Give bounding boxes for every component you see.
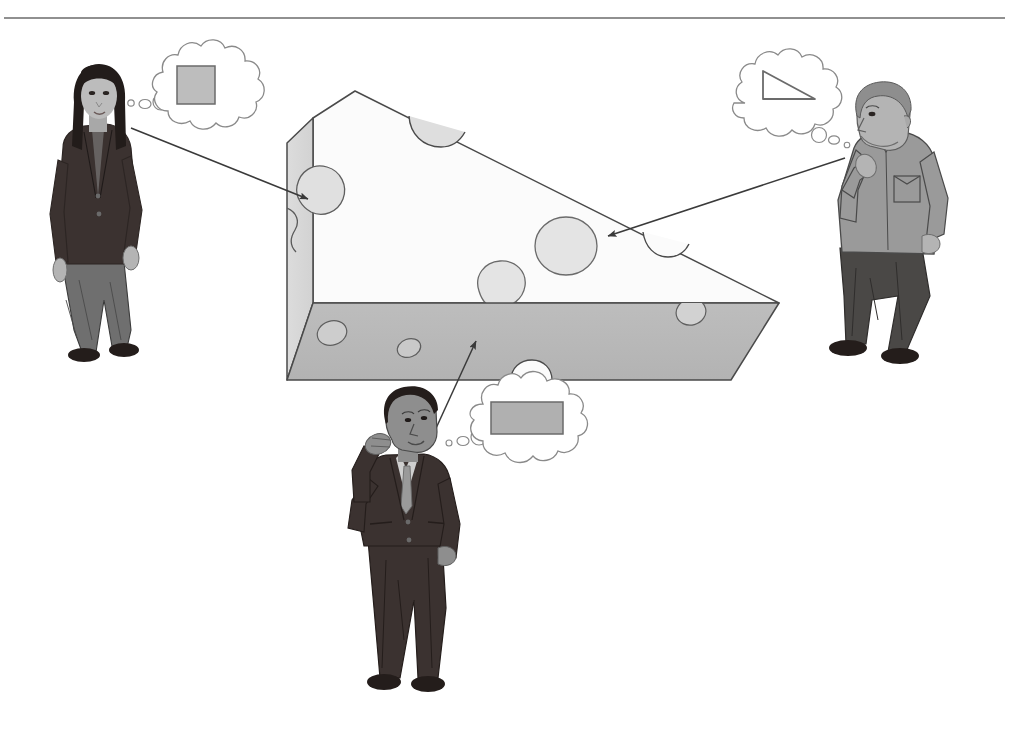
cheese-front-triangular-face xyxy=(313,91,779,308)
man-observer-thinking[interactable] xyxy=(829,82,948,364)
suit-man-shoe-right xyxy=(411,676,445,692)
woman-eye-right xyxy=(103,91,109,95)
rectangle-shape xyxy=(491,402,563,434)
square-shape xyxy=(177,66,215,104)
thought-bubble-right[interactable] xyxy=(733,49,850,148)
right-man-shoe-right xyxy=(881,348,919,364)
suit-man-eye-right xyxy=(421,416,427,420)
thought-dot-bottom-small xyxy=(446,440,452,446)
cheese-hole-edge xyxy=(297,166,345,214)
thought-dot-right-small xyxy=(844,142,850,148)
thought-dot-left-mid xyxy=(139,100,151,109)
right-man-eye xyxy=(869,112,876,116)
thought-bubble-bottom[interactable] xyxy=(446,372,587,463)
woman-hand-left xyxy=(53,258,67,282)
thought-bubble-left[interactable] xyxy=(128,40,264,129)
sight-line-right xyxy=(608,158,845,236)
right-man-shoe-left xyxy=(829,340,867,356)
sight-line-left xyxy=(131,128,308,199)
woman-shoe-left xyxy=(68,348,100,362)
man-observer-suit[interactable] xyxy=(348,386,460,692)
suit-man-hand-pocket xyxy=(438,546,456,565)
cheese-bottom-rectangular-face xyxy=(287,296,779,380)
thought-dot-right-mid xyxy=(829,136,840,144)
woman-observer[interactable] xyxy=(50,64,142,362)
figure-canvas xyxy=(0,0,1009,734)
thought-dot-bottom-mid xyxy=(457,437,469,446)
cheese-wedge xyxy=(287,91,779,380)
woman-shoe-right xyxy=(109,343,139,357)
suit-man-eye-left xyxy=(405,418,411,422)
thought-dot-right-large xyxy=(812,128,827,143)
woman-hand-right xyxy=(123,246,139,270)
thought-bubble-right-cloud xyxy=(733,49,842,136)
figure-container: Three observers viewing a wedge of chees… xyxy=(0,0,1009,734)
thought-dot-left-small xyxy=(128,100,134,106)
suit-man-trousers xyxy=(368,540,446,678)
right-man-trousers xyxy=(840,248,930,352)
woman-eye-left xyxy=(89,91,95,95)
suit-man-shoe-left xyxy=(367,674,401,690)
cheese-hole-front-1 xyxy=(535,217,597,275)
right-man-hand-hip xyxy=(922,234,940,253)
